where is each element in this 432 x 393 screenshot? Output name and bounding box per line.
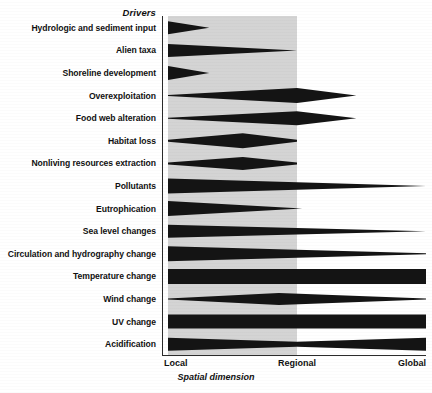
driver-label: Alien taxa <box>0 45 156 55</box>
drivers-spatial-dimension-figure: Drivers Hydrologic and sediment inputAli… <box>0 0 432 393</box>
driver-label: Food web alteration <box>0 113 156 123</box>
driver-label: Hydrologic and sediment input <box>0 23 156 33</box>
driver-label: Shoreline development <box>0 68 156 78</box>
driver-wedges-svg <box>168 16 426 355</box>
driver-label: Circulation and hydrography change <box>0 249 156 259</box>
x-tick-label-regional: Regional <box>278 358 316 368</box>
drivers-header: Drivers <box>123 7 156 18</box>
y-axis-line <box>162 16 163 356</box>
driver-label: Acidification <box>0 339 156 349</box>
driver-label: Overexploitation <box>0 91 156 101</box>
driver-label: Nonliving resources extraction <box>0 158 156 168</box>
driver-label: UV change <box>0 317 156 327</box>
x-tick-label-local: Local <box>164 358 188 368</box>
driver-label: Pollutants <box>0 181 156 191</box>
driver-label: Temperature change <box>0 271 156 281</box>
plot-area <box>168 16 426 355</box>
driver-label: Sea level changes <box>0 226 156 236</box>
driver-label: Wind change <box>0 294 156 304</box>
x-tick-label-global: Global <box>398 358 426 368</box>
driver-wedge <box>168 315 426 329</box>
x-axis-line <box>162 355 426 356</box>
x-axis-caption: Spatial dimension <box>0 372 432 382</box>
driver-wedge <box>168 269 426 284</box>
driver-label: Habitat loss <box>0 136 156 146</box>
driver-label: Eutrophication <box>0 204 156 214</box>
driver-labels-column: Drivers Hydrologic and sediment inputAli… <box>0 0 156 360</box>
